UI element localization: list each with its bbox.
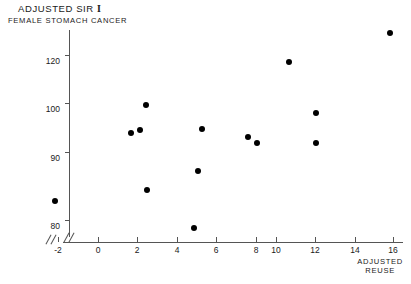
x-axis-break-slash-2 <box>50 234 56 244</box>
data-point <box>191 225 197 231</box>
x-tick-mark <box>276 237 277 242</box>
x-tick-mark <box>315 237 316 242</box>
x-tick-mark <box>177 237 178 242</box>
y-tick-mark <box>65 152 70 153</box>
data-point <box>286 59 292 65</box>
data-point <box>195 168 201 174</box>
chart-title-block: Adjusted SIR I Female Stomach Cancer <box>18 4 127 24</box>
x-axis-label: Adjusted Reuse <box>357 258 403 275</box>
data-point <box>387 30 393 36</box>
y-tick-label-wrap: 100 <box>22 98 60 116</box>
data-point <box>313 140 319 146</box>
y-tick-label-wrap: 80 <box>22 215 60 233</box>
x-tick-mark <box>58 237 59 242</box>
y-tick-label: 80 <box>51 221 60 231</box>
data-point <box>52 198 58 204</box>
x-tick-mark <box>98 237 99 242</box>
y-tick-label-wrap: 120 <box>22 50 60 68</box>
x-tick-mark <box>256 237 257 242</box>
data-point <box>128 130 134 136</box>
x-tick-label: 14 <box>343 245 367 255</box>
data-point <box>143 102 149 108</box>
data-point <box>144 187 150 193</box>
x-axis-label-line2: Reuse <box>357 267 403 276</box>
x-tick-label: 10 <box>264 245 288 255</box>
data-point <box>137 127 143 133</box>
y-tick-mark <box>65 103 70 104</box>
x-tick-mark <box>137 237 138 242</box>
chart-title-symbol: I <box>97 3 102 14</box>
x-tick-label: 4 <box>165 245 189 255</box>
x-tick-label: 12 <box>303 245 327 255</box>
chart-title-text: Adjusted SIR <box>18 3 94 14</box>
data-point <box>199 126 205 132</box>
data-point <box>245 134 251 140</box>
x-tick-label: 0 <box>86 245 110 255</box>
data-point <box>254 140 260 146</box>
x-tick-mark <box>216 237 217 242</box>
x-tick-mark <box>355 237 356 242</box>
chart-title-primary: Adjusted SIR I <box>18 4 127 15</box>
y-axis-line <box>69 30 70 237</box>
y-tick-label: 90 <box>51 153 60 163</box>
x-axis-line <box>63 242 403 243</box>
data-point <box>313 110 319 116</box>
x-tick-label: 6 <box>204 245 228 255</box>
y-tick-mark <box>65 55 70 56</box>
y-tick-label: 100 <box>46 104 60 114</box>
y-tick-mark <box>65 220 70 221</box>
x-tick-mark <box>393 237 394 242</box>
scatter-plot-figure: Adjusted SIR I Female Stomach Cancer 120… <box>0 0 411 284</box>
x-tick-label: 2 <box>125 245 149 255</box>
x-tick-label: 16 <box>381 245 405 255</box>
x-tick-label: -2 <box>46 245 70 255</box>
y-tick-label: 120 <box>46 56 60 66</box>
chart-subtitle: Female Stomach Cancer <box>8 17 127 25</box>
y-tick-label-wrap: 90 <box>22 147 60 165</box>
